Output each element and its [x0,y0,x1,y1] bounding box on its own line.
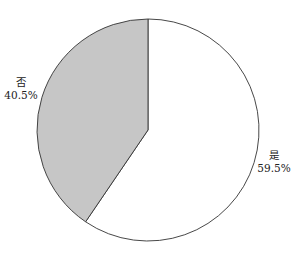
label-yes-name: 是 [256,149,292,162]
pie-chart [0,0,296,254]
label-no-pct: 40.5% [4,89,38,102]
label-yes-pct: 59.5% [256,162,292,175]
label-yes: 是 59.5% [256,149,292,175]
label-no: 否 40.5% [4,76,38,102]
label-no-name: 否 [4,76,38,89]
